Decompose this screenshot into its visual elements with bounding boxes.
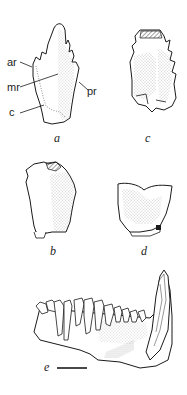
label-mr: mr xyxy=(7,82,20,93)
panel-label-d: d xyxy=(141,244,147,259)
panel-label-c: c xyxy=(145,131,150,146)
leader-ar xyxy=(20,62,32,67)
panel-label-e: e xyxy=(44,360,49,375)
panel-d-tooth xyxy=(118,183,172,236)
label-ar: ar xyxy=(7,57,17,68)
panel-label-b: b xyxy=(50,244,56,259)
panel-label-a: a xyxy=(54,131,60,146)
label-c: c xyxy=(9,107,15,118)
panel-e-jaw xyxy=(34,270,172,368)
panel-b-tooth xyxy=(26,162,76,238)
panel-a-tooth xyxy=(33,24,79,124)
panel-c-tooth xyxy=(130,30,176,112)
leader-c xyxy=(20,105,44,113)
label-pr: pr xyxy=(87,86,97,97)
figure-canvas xyxy=(0,0,187,395)
